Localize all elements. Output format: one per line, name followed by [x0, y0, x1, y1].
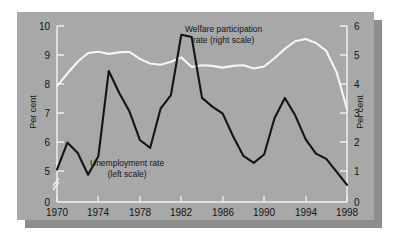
left-tick-7: 7: [44, 108, 50, 119]
x-tick-1986: 1986: [212, 207, 235, 218]
left-tick-10: 10: [39, 21, 51, 32]
x-tick-1990: 1990: [253, 207, 276, 218]
left-axis-ticks: [57, 26, 64, 171]
x-tick-1982: 1982: [170, 207, 193, 218]
annotation-welfare-line2: rate (right scale): [185, 35, 262, 46]
annotation-unemployment-rate: Unemployment rate (left scale): [90, 158, 164, 180]
right-tick-1: 1: [354, 166, 360, 177]
annotation-welfare-line1: Welfare participation: [185, 24, 262, 35]
right-axis-title: Per cent: [355, 89, 365, 135]
left-axis-title: Per cent: [28, 89, 38, 135]
x-tick-1970: 1970: [46, 207, 69, 218]
annotation-unemployment-line1: Unemployment rate: [90, 158, 164, 169]
chart-panel: 10 9 8 7 6 5 0 6 5 4 3 2 1 0 1970 19: [17, 12, 374, 220]
x-tick-labels: 1970 1974 1978 1982 1986 1990 1994 1998: [46, 207, 359, 218]
left-tick-8: 8: [44, 79, 50, 90]
x-tick-1994: 1994: [295, 207, 318, 218]
chart-figure: 10 9 8 7 6 5 0 6 5 4 3 2 1 0 1970 19: [0, 0, 402, 249]
annotation-welfare-participation: Welfare participation rate (right scale): [185, 24, 262, 46]
annotation-unemployment-line2: (left scale): [90, 169, 164, 180]
axis-break-zigzag-icon: [53, 178, 59, 190]
right-tick-2: 2: [354, 137, 360, 148]
x-tick-1978: 1978: [129, 207, 152, 218]
x-axis-ticks: [57, 196, 347, 202]
left-tick-labels: 10 9 8 7 6 5 0: [39, 21, 51, 208]
left-tick-9: 9: [44, 50, 50, 61]
left-tick-6: 6: [44, 137, 50, 148]
x-tick-1998: 1998: [336, 207, 359, 218]
x-tick-1974: 1974: [87, 207, 110, 218]
left-tick-5: 5: [44, 166, 50, 177]
right-tick-6: 6: [354, 21, 360, 32]
right-tick-5: 5: [354, 50, 360, 61]
